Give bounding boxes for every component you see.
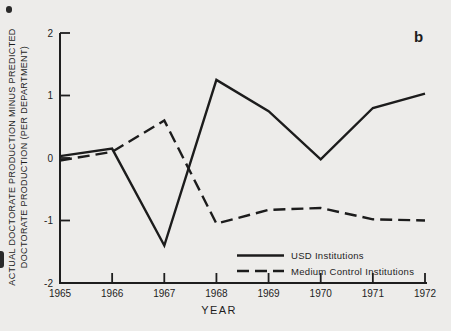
chart-plot-area: ACTUAL DOCTORATE PRODUCTION MINUS PREDIC… [0,0,451,331]
y-axis-title-line2: DOCTORATE PRODUCTION (PER DEPARTMENT) [19,46,29,268]
scan-artifact-top-left [6,6,12,13]
x-tick-label: 1965 [49,288,72,299]
x-tick-label: 1969 [257,288,280,299]
series-group [60,80,425,246]
panel-label: b [414,28,423,45]
x-tick-label: 1966 [101,288,124,299]
legend-label-usd: USD Institutions [291,250,364,261]
x-tick-label: 1972 [414,288,437,299]
legend-label-medium-control: Medium Control Institutions [291,266,414,277]
y-tick-label: -2 [44,278,53,289]
y-tick-label: -1 [44,215,53,226]
x-tick-label: 1967 [153,288,176,299]
x-tick-label: 1971 [362,288,385,299]
doctorate-production-chart: ACTUAL DOCTORATE PRODUCTION MINUS PREDIC… [0,0,451,331]
y-tick-label: 1 [47,90,53,101]
y-axis-title-line1: ACTUAL DOCTORATE PRODUCTION MINUS PREDIC… [7,28,17,286]
scan-artifact-left-edge [0,251,4,268]
series-line-medium-control-institutions [60,121,425,224]
x-axis-title: YEAR [201,304,237,316]
y-tick-label: 2 [47,28,53,39]
series-line-usd-institutions [60,80,425,246]
x-tick-label: 1968 [205,288,228,299]
legend: USD Institutions Medium Control Institut… [237,250,414,277]
y-tick-label: 0 [47,153,53,164]
axes-group: -2-101219651966196719681969197019711972 [44,28,436,300]
x-tick-label: 1970 [310,288,333,299]
axis-frame [60,33,427,283]
